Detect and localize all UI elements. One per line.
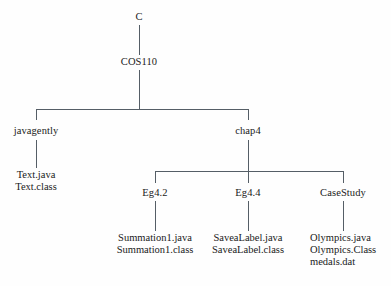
file-item: SaveaLabel.java (212, 232, 284, 244)
file-item: Summation1.class (117, 244, 194, 256)
connector-root-to-course (139, 25, 140, 55)
connector-bar-to-eg42 (155, 171, 156, 183)
connector-bar-to-chap4 (248, 109, 249, 120)
file-item: Olympics.Class (310, 244, 376, 256)
tree-node-chap4: chap4 (235, 125, 261, 137)
connector-chap4-to-branch-bar (248, 140, 249, 172)
file-list-eg42: Summation1.java Summation1.class (117, 232, 194, 256)
connector-bar-to-casestudy (343, 171, 344, 183)
directory-tree-diagram: C COS110 javagently Text.java Text.class… (0, 0, 391, 286)
file-item: medals.dat (310, 256, 376, 268)
connector-eg44-to-files (248, 201, 249, 231)
connector-bar-to-eg44 (248, 171, 249, 183)
tree-node-root: C (135, 11, 142, 23)
tree-node-casestudy: CaseStudy (320, 187, 366, 199)
tree-node-course: COS110 (121, 56, 157, 68)
tree-node-javagently: javagently (14, 125, 59, 137)
branch-bar-level2 (36, 109, 249, 110)
file-item: Summation1.java (117, 232, 194, 244)
file-item: Olympics.java (310, 232, 376, 244)
connector-course-to-branch-bar (139, 70, 140, 109)
branch-bar-level3 (155, 171, 344, 172)
connector-bar-to-javagently (36, 109, 37, 120)
tree-node-eg42: Eg4.2 (142, 187, 167, 199)
file-list-eg44: SaveaLabel.java SaveaLabel.class (212, 232, 284, 256)
connector-eg42-to-files (155, 201, 156, 231)
file-item: SaveaLabel.class (212, 244, 284, 256)
connector-casestudy-to-files (343, 201, 344, 231)
file-list-javagently: Text.java Text.class (15, 169, 57, 193)
tree-node-eg44: Eg4.4 (235, 187, 260, 199)
file-item: Text.java (15, 169, 57, 181)
file-item: Text.class (15, 181, 57, 193)
file-list-casestudy: Olympics.java Olympics.Class medals.dat (310, 232, 376, 269)
connector-javagently-to-files (36, 140, 37, 168)
